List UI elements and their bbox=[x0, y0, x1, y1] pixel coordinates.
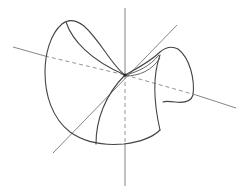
origin-point bbox=[123, 73, 126, 76]
saddle-surface-diagram bbox=[0, 0, 248, 195]
diagonal-axis bbox=[53, 25, 177, 153]
surface-outline bbox=[45, 21, 193, 145]
